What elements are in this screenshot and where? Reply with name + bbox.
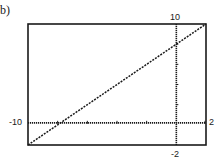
plotted-line	[28, 24, 206, 145]
calculator-graph	[0, 0, 217, 162]
xmax-label: 2	[209, 118, 214, 127]
series-line	[28, 24, 206, 145]
xmin-label: -10	[9, 118, 22, 127]
ymin-label: -2	[171, 150, 179, 159]
ymax-label: 10	[170, 13, 180, 22]
